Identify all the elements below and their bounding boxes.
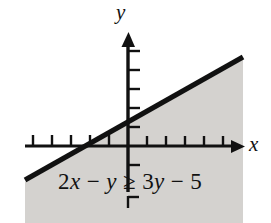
y-axis-label: y: [116, 2, 125, 23]
lhs-coefficient: 2: [58, 169, 70, 194]
rhs-constant: 5: [190, 169, 202, 194]
rhs-coefficient: 3: [142, 169, 154, 194]
lhs-variable-x: x: [70, 169, 81, 194]
inequality-graph-figure: y x 2x − y ≥ 3y − 5: [0, 0, 271, 223]
rhs-variable-y: y: [154, 169, 165, 194]
lhs-variable-y: y: [106, 169, 117, 194]
relation-sign: ≥: [123, 169, 136, 194]
rhs-minus-sign: −: [171, 169, 184, 194]
y-axis-arrowhead: [122, 32, 136, 47]
shaded-solution-region: [25, 59, 243, 223]
x-axis-label: x: [249, 134, 258, 155]
inequality-caption: 2x − y ≥ 3y − 5: [58, 170, 202, 193]
lhs-minus-sign: −: [87, 169, 100, 194]
